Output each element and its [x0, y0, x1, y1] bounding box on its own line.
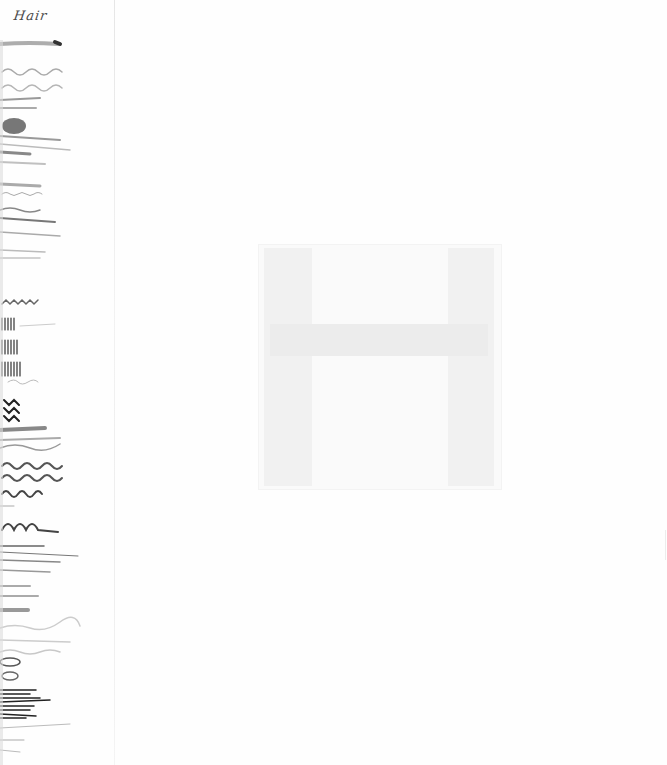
show-through-h-shape [258, 244, 502, 490]
ghost-left-column [264, 248, 312, 486]
ghost-right-column [448, 248, 494, 486]
margin-line [114, 0, 115, 765]
hair-stroke-samples [0, 0, 110, 765]
ghost-crossbar [270, 324, 488, 356]
scanned-page: Hair [0, 0, 667, 765]
right-edge-mark [665, 530, 666, 560]
